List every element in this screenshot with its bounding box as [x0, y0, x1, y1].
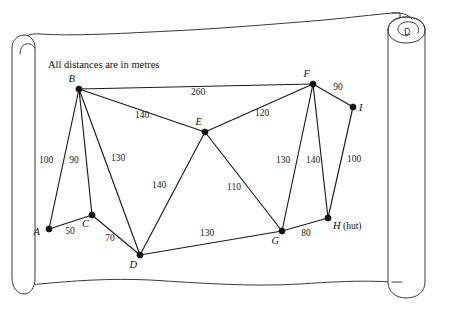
edge-weight-e-g: 110	[227, 182, 241, 192]
edge-weight-c-d: 70	[105, 233, 115, 243]
edge-weight-f-i: 90	[333, 82, 343, 92]
graph-node-c	[89, 212, 95, 218]
edge-weight-h-i: 100	[347, 154, 362, 164]
node-label-e: E	[195, 116, 203, 127]
edge-weight-a-b: 100	[39, 155, 54, 165]
graph-canvas: All distances are in metres 100509013014…	[0, 0, 467, 314]
node-label-i: I	[358, 102, 363, 113]
edge-weight-f-h: 140	[306, 155, 321, 165]
edge-weight-d-e: 140	[152, 180, 167, 190]
scroll-graph-figure: All distances are in metres 100509013014…	[0, 0, 467, 314]
edge-weight-d-g: 130	[200, 228, 215, 238]
left-scroll-roll	[12, 35, 35, 294]
node-label-a: A	[33, 226, 41, 237]
figure-caption: All distances are in metres	[48, 59, 159, 70]
node-label-f: F	[303, 68, 311, 79]
edge-weight-e-f: 120	[255, 108, 270, 118]
edge-weight-f-g: 130	[276, 155, 291, 165]
node-label-d: D	[128, 259, 137, 270]
right-scroll-roll	[388, 17, 425, 298]
graph-node-b	[76, 86, 82, 92]
edge-weight-b-e: 140	[135, 110, 150, 120]
parchment-sheet	[22, 13, 402, 285]
node-label-b: B	[69, 73, 76, 84]
graph-node-a	[46, 226, 52, 232]
edge-weight-b-d: 130	[111, 153, 126, 163]
graph-node-e	[202, 129, 208, 135]
graph-node-d	[137, 252, 143, 258]
graph-node-g	[279, 228, 285, 234]
node-label-c: C	[82, 218, 90, 229]
graph-node-h	[325, 215, 331, 221]
graph-node-i	[350, 104, 356, 110]
node-label-g: G	[271, 235, 279, 246]
edge-weight-b-c: 90	[69, 155, 79, 165]
graph-node-f	[310, 81, 316, 87]
edge-weight-b-f: 260	[191, 87, 206, 97]
edge-weight-a-c: 50	[65, 226, 75, 236]
node-label-h: H (hut)	[332, 220, 361, 232]
node-suffix-h: (hut)	[341, 221, 362, 232]
edge-weight-g-h: 80	[301, 228, 311, 238]
